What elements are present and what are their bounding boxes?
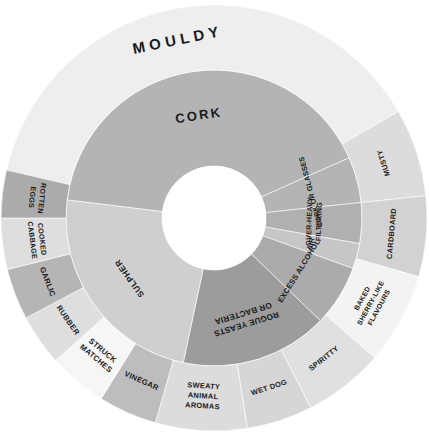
flavour-wheel-figure: CORKCORK OR GLASSESOVER-HEAVYFILTERINGAI… — [0, 0, 429, 446]
segment-label-text: FILTERING — [314, 202, 324, 242]
segment-label-group: SWEATYANIMALAROMAS — [185, 380, 221, 411]
flavour-wheel-svg: CORKCORK OR GLASSESOVER-HEAVYFILTERINGAI… — [0, 0, 429, 446]
wheel-hub — [162, 166, 266, 270]
segment-label-text: ANIMAL — [188, 390, 219, 401]
